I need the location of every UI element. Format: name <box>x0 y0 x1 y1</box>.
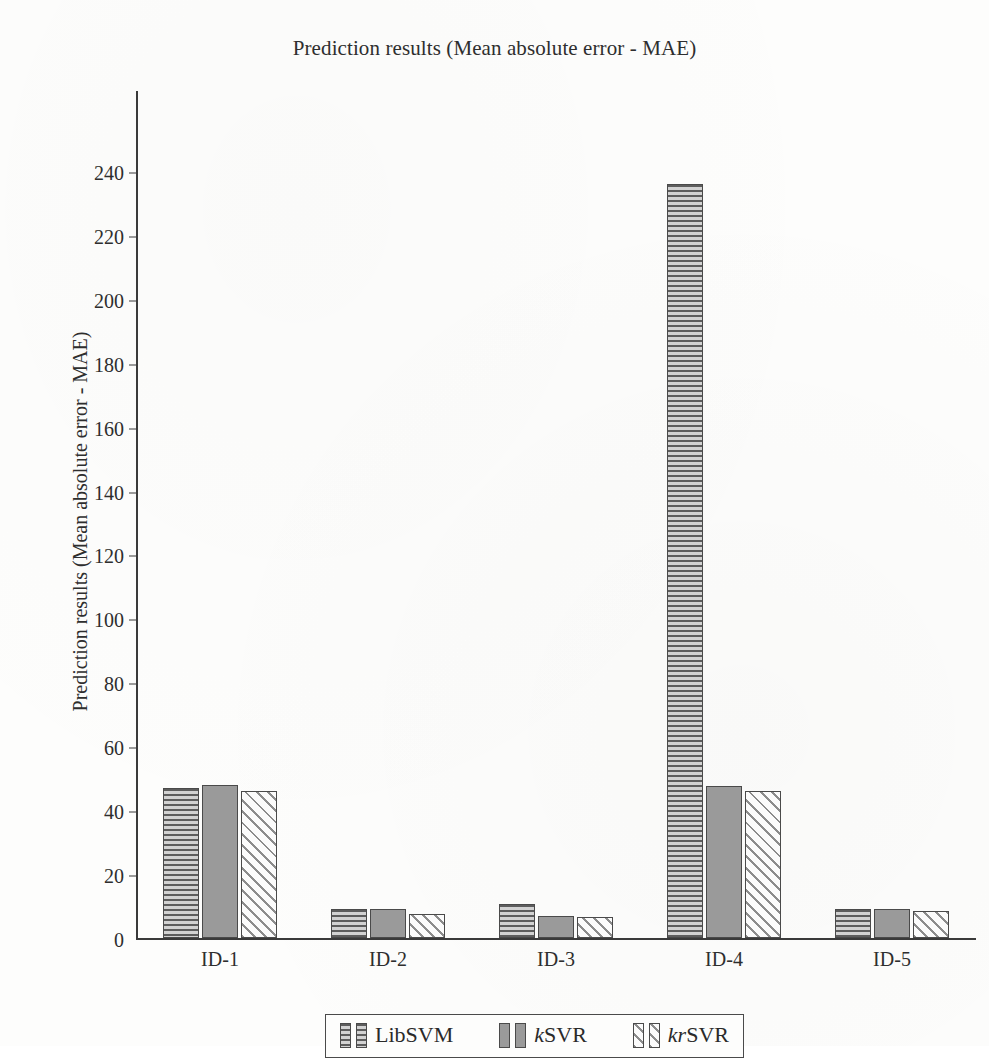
bar-libsvm-id-4[interactable] <box>667 184 703 938</box>
legend-label: LibSVM <box>375 1022 453 1048</box>
legend-entry-krsvr[interactable]: krSVR <box>633 1022 729 1048</box>
y-axis-tick-mark <box>129 300 136 301</box>
y-axis-tick-mark <box>129 748 136 749</box>
bar-krsvr-id-3[interactable] <box>577 917 613 938</box>
bar-group: ID-3 <box>499 155 613 938</box>
y-axis-tick-mark <box>129 172 136 173</box>
legend-swatch-icon <box>340 1023 351 1048</box>
bar-group: ID-5 <box>835 155 949 938</box>
y-axis-tick-label: 80 <box>104 673 124 696</box>
legend-entry-ksvr[interactable]: kSVR <box>499 1022 587 1048</box>
y-axis-tick-label: 180 <box>94 353 124 376</box>
bar-ksvr-id-3[interactable] <box>538 916 574 938</box>
bar-ksvr-id-4[interactable] <box>706 786 742 938</box>
y-axis-tick-label: 0 <box>114 929 124 952</box>
bar-libsvm-id-1[interactable] <box>163 788 199 938</box>
y-axis-tick-label: 120 <box>94 545 124 568</box>
bar-ksvr-id-5[interactable] <box>874 909 910 938</box>
chart-legend: LibSVMkSVRkrSVR <box>325 1014 744 1058</box>
y-axis-tick-mark <box>129 428 136 429</box>
bar-group: ID-4 <box>667 155 781 938</box>
chart-title: Prediction results (Mean absolute error … <box>0 36 989 61</box>
bar-libsvm-id-2[interactable] <box>331 909 367 938</box>
x-axis-tick-label: ID-5 <box>873 948 911 971</box>
plot-area: 020406080100120140160180200220240 ID-1ID… <box>136 155 976 940</box>
y-axis-tick-label: 140 <box>94 481 124 504</box>
y-axis-tick-mark <box>129 620 136 621</box>
legend-swatch-icon <box>499 1023 510 1048</box>
y-axis-tick-mark <box>129 876 136 877</box>
y-axis-tick-label: 40 <box>104 801 124 824</box>
bar-krsvr-id-1[interactable] <box>241 791 277 938</box>
x-axis-tick-label: ID-4 <box>705 948 743 971</box>
y-axis-tick-label: 160 <box>94 417 124 440</box>
bar-krsvr-id-2[interactable] <box>409 914 445 938</box>
bar-libsvm-id-5[interactable] <box>835 909 871 938</box>
x-axis-tick-label: ID-3 <box>537 948 575 971</box>
y-axis-tick-mark <box>129 556 136 557</box>
y-axis-tick-label: 200 <box>94 289 124 312</box>
y-axis-tick-label: 240 <box>94 161 124 184</box>
y-axis-tick-label: 220 <box>94 225 124 248</box>
legend-swatch-icon <box>515 1023 526 1048</box>
legend-label: kSVR <box>534 1022 587 1048</box>
bar-krsvr-id-4[interactable] <box>745 791 781 938</box>
bar-ksvr-id-1[interactable] <box>202 785 238 938</box>
legend-entry-libsvm[interactable]: LibSVM <box>340 1022 453 1048</box>
x-axis-tick-label: ID-2 <box>369 948 407 971</box>
bar-krsvr-id-5[interactable] <box>913 911 949 938</box>
legend-swatch-icon <box>649 1023 660 1048</box>
y-axis-tick-label: 100 <box>94 609 124 632</box>
bar-group: ID-2 <box>331 155 445 938</box>
y-axis-line <box>136 91 138 940</box>
bar-libsvm-id-3[interactable] <box>499 904 535 938</box>
legend-label: krSVR <box>668 1022 729 1048</box>
y-axis-tick-mark <box>129 812 136 813</box>
y-axis-tick-label: 60 <box>104 737 124 760</box>
bar-group: ID-1 <box>163 155 277 938</box>
y-axis-tick-mark <box>129 236 136 237</box>
y-axis-tick-mark <box>129 364 136 365</box>
y-axis-tick-mark <box>129 492 136 493</box>
x-axis-line <box>136 938 976 940</box>
y-axis-tick-label: 20 <box>104 865 124 888</box>
x-axis-tick-label: ID-1 <box>201 948 239 971</box>
y-axis-tick-mark <box>129 684 136 685</box>
legend-swatch-icon <box>356 1023 367 1048</box>
legend-swatch-icon <box>633 1023 644 1048</box>
y-axis-title: Prediction results (Mean absolute error … <box>69 242 92 802</box>
bar-ksvr-id-2[interactable] <box>370 909 406 938</box>
